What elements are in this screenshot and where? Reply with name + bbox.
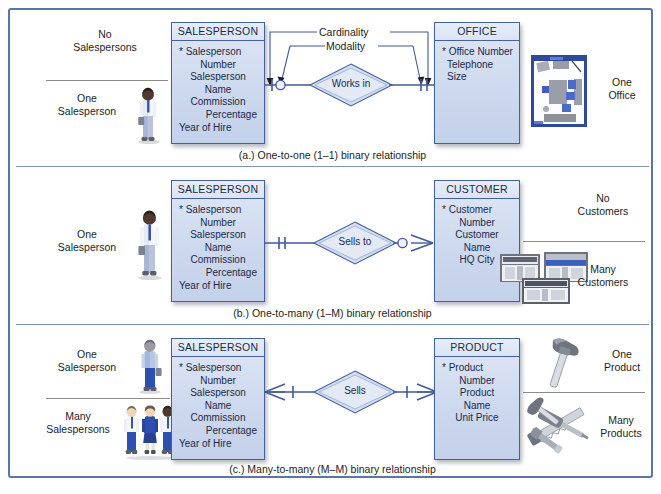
many-products-tools-icon (524, 394, 596, 456)
one-salesperson-figure-icon (134, 86, 162, 144)
label-line: One (32, 228, 142, 241)
panel-c-right-connector (393, 381, 439, 403)
panel-b: One Salesperson (10, 168, 655, 320)
figure-frame: No Salespersons One Salesperson (8, 8, 653, 478)
attribute: Number (442, 217, 512, 230)
entity-salesperson-b[interactable]: SALESPERSON * Salesperson Number Salespe… (171, 180, 265, 302)
cardinality-many-crowsfoot (265, 384, 285, 400)
relationship-sells-to[interactable]: Sells to (313, 221, 397, 265)
attribute: Year of Hire (179, 122, 257, 135)
panel-b-left-label-0: One Salesperson (32, 228, 142, 254)
label-line: Many (20, 410, 136, 423)
attribute: * Product (442, 362, 512, 375)
label-line: Salesperson (32, 361, 142, 374)
annotation-modality: Modality (326, 40, 365, 52)
panel-c-right-label-0: One Product (592, 348, 652, 374)
panel-a: No Salespersons One Salesperson (10, 10, 655, 162)
cardinality-many-crowsfoot (411, 235, 433, 251)
panel-b-right-connector (393, 232, 439, 254)
attribute: Salesperson (179, 387, 257, 400)
attribute: * Salesperson (179, 362, 257, 375)
panel-c-right-divider (523, 392, 645, 393)
entity-attributes: * Product Number Product Name Unit Price (435, 357, 519, 429)
relationship-sells[interactable]: Sells (313, 370, 397, 414)
attribute: Number (179, 59, 257, 72)
attribute: Salesperson (179, 229, 257, 242)
entity-salesperson-a[interactable]: SALESPERSON * Salesperson Number Salespe… (171, 22, 265, 144)
panel-a-right-label-0: One Office (596, 76, 648, 102)
attribute: Commission (179, 96, 257, 109)
panel-divider-2 (16, 324, 649, 325)
attribute: Name (179, 242, 257, 255)
attribute: Number (179, 375, 257, 388)
panel-c-right-label-1: Many Products (588, 414, 654, 440)
panel-a-right-connector (389, 74, 437, 96)
attribute: * Salesperson (179, 204, 257, 217)
attribute: Commission (179, 254, 257, 267)
entity-header: PRODUCT (435, 339, 519, 357)
label-line: One (596, 76, 648, 89)
attribute: Commission (179, 412, 257, 425)
attribute: * Customer (442, 204, 512, 217)
attribute: Product (442, 387, 512, 400)
label-line: No (50, 28, 160, 41)
label-line: Customers (565, 205, 641, 218)
panel-a-caption: (a.) One-to-one (1–1) binary relationshi… (10, 149, 655, 161)
attribute: Size (442, 71, 512, 84)
entity-salesperson-c[interactable]: SALESPERSON * Salesperson Number Salespe… (171, 338, 265, 460)
entity-office[interactable]: OFFICE * Office Number Telephone Size (434, 22, 520, 144)
label-line: Office (596, 89, 648, 102)
panel-a-left-divider (46, 80, 168, 81)
one-salesperson-figure-icon (134, 208, 164, 280)
attribute: Name (179, 84, 257, 97)
label-line: Salespersons (20, 423, 136, 436)
salespersons-figures-icon (122, 404, 178, 460)
panel-c-left-connector (265, 381, 319, 403)
attribute: Salesperson (179, 71, 257, 84)
entity-header: CUSTOMER (435, 181, 519, 199)
entity-header: OFFICE (435, 23, 519, 41)
panel-c-left-label-0: One Salesperson (32, 348, 142, 374)
panel-b-right-divider (523, 241, 645, 242)
label-line: One (592, 348, 652, 361)
attribute: Unit Price (442, 412, 512, 425)
entity-header: SALESPERSON (172, 23, 264, 41)
entity-attributes: * Salesperson Number Salesperson Name Co… (172, 199, 264, 296)
modality-zero-circle (276, 80, 285, 89)
relationship-works-in[interactable]: Works in (309, 63, 393, 107)
one-product-hammer-icon (534, 338, 588, 390)
panel-c: One Salesperson (10, 326, 655, 476)
panel-b-right-label-1: Many Customers (565, 263, 641, 289)
entity-product[interactable]: PRODUCT * Product Number Product Name Un… (434, 338, 520, 460)
entity-attributes: * Salesperson Number Salesperson Name Co… (172, 357, 264, 454)
attribute: Number (179, 217, 257, 230)
label-line: Many (565, 263, 641, 276)
panel-divider-1 (16, 166, 649, 167)
label-line: Products (588, 427, 654, 440)
panel-c-left-label-1: Many Salespersons (20, 410, 136, 436)
panel-a-left-label-1: One Salesperson (32, 92, 142, 118)
label-line: Many (588, 414, 654, 427)
panel-c-left-divider (46, 398, 170, 399)
attribute: Year of Hire (179, 438, 257, 451)
label-line: Salesperson (32, 241, 142, 254)
modality-zero-circle (398, 238, 407, 247)
attribute: * Salesperson (179, 46, 257, 59)
attribute: Name (179, 400, 257, 413)
panel-b-caption: (b.) One-to-many (1–M) binary relationsh… (10, 307, 655, 319)
panel-b-left-connector (265, 232, 319, 254)
panel-c-caption: (c.) Many-to-many (M–M) binary relations… (10, 463, 655, 475)
attribute: Year of Hire (179, 280, 257, 293)
label-line: Customers (565, 276, 641, 289)
figure-canvas: No Salespersons One Salesperson (0, 0, 661, 494)
attribute: Percentage (179, 109, 257, 122)
label-line: One (32, 92, 142, 105)
label-line: One (32, 348, 142, 361)
attribute: Telephone (442, 59, 512, 72)
attribute: Number (442, 375, 512, 388)
label-line: Salesperson (32, 105, 142, 118)
office-floorplan-icon (528, 52, 590, 130)
entity-header: SALESPERSON (172, 339, 264, 357)
label-line: No (565, 192, 641, 205)
annotation-cardinality: Cardinality (319, 26, 369, 38)
